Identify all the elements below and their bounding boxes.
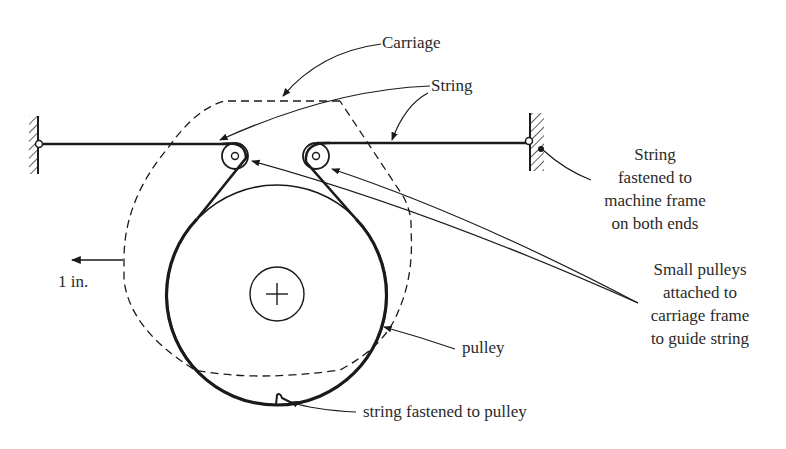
label-string-fastened-pulley: string fastened to pulley (363, 400, 527, 423)
string-on-pulley (167, 219, 387, 405)
label-fastened-frame-line1: String (575, 143, 735, 166)
small-pulley-left (222, 143, 248, 169)
label-string: String (431, 74, 473, 97)
leader-string-right (392, 93, 428, 140)
label-displacement: 1 in. (58, 270, 88, 293)
label-fastened-frame: String fastened to machine frame on both… (575, 143, 735, 235)
left-anchor (36, 141, 43, 148)
leader-pulley (384, 327, 455, 349)
label-small-pulleys-line1: Small pulleys (630, 258, 770, 281)
label-carriage: Carriage (382, 31, 441, 54)
leader-carriage (283, 44, 381, 96)
pulley-hub (250, 267, 304, 321)
label-small-pulleys: Small pulleys attached to carriage frame… (630, 258, 770, 350)
leader-string-left (220, 86, 430, 140)
label-fastened-frame-line4: on both ends (575, 212, 735, 235)
label-fastened-frame-line3: machine frame (575, 189, 735, 212)
label-small-pulleys-line3: carriage frame (630, 304, 770, 327)
right-anchor (526, 138, 533, 145)
label-small-pulleys-line4: to guide string (630, 327, 770, 350)
label-fastened-frame-line2: fastened to (575, 166, 735, 189)
label-pulley: pulley (462, 336, 505, 359)
label-small-pulleys-line2: attached to (630, 281, 770, 304)
right-anchor-dot (538, 146, 544, 152)
